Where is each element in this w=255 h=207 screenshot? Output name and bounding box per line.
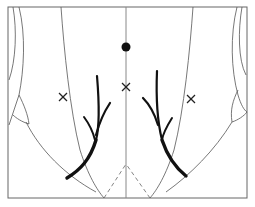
right-branch-stem: [157, 71, 162, 140]
left-lobe: [13, 95, 29, 124]
right-lobe: [231, 90, 247, 122]
diagram-svg: [0, 0, 255, 207]
right-branch-base: [162, 140, 186, 176]
left-contour-inner: [9, 7, 15, 80]
diagram-canvas: [0, 0, 255, 207]
right-dashed-line: [126, 164, 150, 198]
left-branch-side: [84, 117, 95, 140]
right-branch-fork: [143, 98, 158, 125]
dot-marker: [122, 43, 131, 52]
cross-marker-left: [59, 93, 67, 101]
right-branch-side: [162, 118, 172, 140]
right-contour-inner: [239, 7, 246, 75]
right-diagonal-curve: [166, 122, 232, 192]
cross-marker-right: [187, 95, 195, 103]
diagram-frame: [8, 7, 247, 198]
left-contour-outer: [9, 7, 24, 125]
left-branch-base: [67, 140, 96, 178]
left-dashed-line: [104, 164, 126, 198]
left-diagonal-curve: [26, 122, 96, 192]
